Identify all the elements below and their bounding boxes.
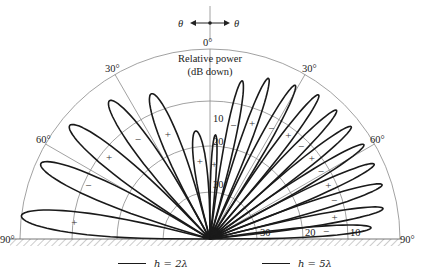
center-dot-icon — [208, 21, 212, 25]
right-arrow-icon — [224, 20, 230, 26]
angle-label-right-60: 60° — [370, 134, 385, 145]
lobe-sign-right-2: + — [249, 117, 255, 129]
theta-right-label: θ — [234, 18, 239, 29]
lobe-sign-right-11: − — [323, 225, 329, 237]
left-arrow-icon — [190, 20, 196, 26]
lobe-sign-right-0: + — [211, 158, 217, 170]
legend-item-h2: h = 2λ — [118, 258, 188, 269]
radiation-pattern-diagram: θ θ 0° 30° 30° 60° 60° 90° 90° — [0, 0, 423, 280]
angle-label-0: 0° — [203, 37, 212, 48]
lobe-sign-right-6: + — [309, 152, 315, 164]
lobe-sign-right-3: − — [268, 122, 274, 134]
lobe-left-5 — [21, 210, 210, 239]
legend-line-swatch — [262, 263, 290, 264]
lobe-sign-left-2: − — [135, 133, 141, 145]
lobe-sign-right-1: − — [230, 119, 236, 131]
lobe-sign-right-9: − — [331, 194, 337, 206]
lobe-sign-right-4: + — [285, 129, 291, 141]
theta-left-label: θ — [178, 18, 183, 29]
angle-label-left-30: 30° — [105, 63, 120, 74]
lobe-sign-left-4: − — [85, 179, 91, 191]
lobe-sign-right-8: + — [325, 179, 331, 191]
lobe-sign-right-10: + — [332, 211, 338, 223]
lobe-sign-right-7: − — [318, 165, 324, 177]
lobe-sign-left-5: + — [71, 216, 77, 228]
angle-label-right-90: 90° — [400, 234, 415, 245]
legend-label-h2: h = 2λ — [154, 258, 188, 269]
angle-label-left-90: 90° — [0, 234, 15, 245]
legend-line-swatch — [118, 263, 146, 264]
lobe-sign-left-1: + — [165, 128, 171, 140]
axis-title-line1: Relative power — [178, 53, 242, 64]
lobe-sign-right-5: − — [298, 140, 304, 152]
angle-label-right-30: 30° — [302, 63, 317, 74]
legend-label-h5: h = 5λ — [298, 258, 332, 269]
theta-direction-indicator: θ θ — [178, 6, 239, 40]
legend-item-h5: h = 5λ — [262, 258, 332, 269]
lobe-sign-left-3: + — [106, 151, 112, 163]
ground-plane — [10, 239, 402, 246]
axis-title-line2: (dB down) — [187, 66, 233, 78]
ring-label-10: 10 — [213, 113, 224, 124]
angle-label-left-60: 60° — [36, 134, 51, 145]
lobe-sign-left-0: + — [197, 155, 203, 167]
